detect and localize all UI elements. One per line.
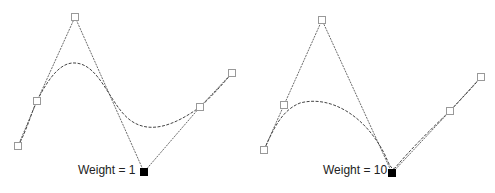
diagram-canvas [0, 0, 495, 193]
control-point[interactable] [319, 17, 326, 24]
control-point[interactable] [34, 98, 41, 105]
control-polygon [264, 20, 481, 173]
control-point[interactable] [281, 102, 288, 109]
control-polygon [18, 17, 232, 172]
weighted-control-point[interactable] [389, 170, 396, 177]
control-point[interactable] [261, 147, 268, 154]
control-point[interactable] [447, 108, 454, 115]
weight-label-10: Weight = 10 [323, 163, 387, 177]
nurbs-curve [264, 77, 481, 168]
control-point[interactable] [229, 70, 236, 77]
control-point[interactable] [478, 74, 485, 81]
nurbs-weight-diagram: Weight = 1 Weight = 10 [0, 0, 495, 193]
weight-label-1: Weight = 1 [78, 163, 135, 177]
control-point[interactable] [197, 104, 204, 111]
control-point[interactable] [15, 143, 22, 150]
control-point[interactable] [72, 14, 79, 21]
weighted-control-point[interactable] [141, 169, 148, 176]
